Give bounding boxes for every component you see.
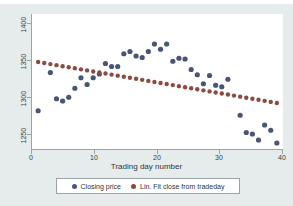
- data-point: [116, 73, 120, 77]
- data-point: [79, 67, 83, 71]
- data-point: [220, 91, 224, 95]
- data-point: [158, 47, 163, 52]
- data-point: [256, 98, 260, 102]
- data-point: [48, 70, 53, 75]
- y-tick-text: 1400: [20, 13, 27, 33]
- data-point: [60, 98, 65, 103]
- data-point: [164, 41, 169, 46]
- x-tick-label-3: 30: [209, 154, 229, 161]
- data-point: [171, 83, 175, 87]
- y-tick-text: 1250: [20, 124, 27, 144]
- data-point: [73, 66, 77, 70]
- data-point: [109, 64, 114, 69]
- data-point: [244, 96, 248, 100]
- legend-label: Lin. Fit close from tradeday: [140, 183, 224, 190]
- data-point: [207, 89, 211, 93]
- data-point: [122, 75, 126, 79]
- data-point: [48, 62, 52, 66]
- data-point: [36, 108, 41, 113]
- data-point: [201, 81, 206, 86]
- data-point: [177, 84, 181, 88]
- data-point: [226, 92, 230, 96]
- data-point: [146, 49, 151, 54]
- data-point: [78, 75, 83, 80]
- data-point: [103, 71, 107, 75]
- data-point: [275, 101, 279, 105]
- filled-circle-marker-icon: [72, 184, 77, 189]
- data-point: [121, 51, 126, 56]
- data-point: [238, 113, 243, 118]
- x-tick-label-2: 20: [147, 154, 167, 161]
- data-point: [140, 55, 145, 60]
- data-point: [97, 70, 101, 74]
- y-tick-mark-0: [27, 23, 31, 24]
- data-point: [195, 87, 199, 91]
- data-point: [219, 84, 224, 89]
- data-point: [256, 137, 261, 142]
- data-point: [274, 140, 279, 145]
- top-margin: [0, 0, 293, 4]
- data-point: [109, 72, 113, 76]
- data-point: [91, 69, 95, 73]
- chart-screenshot: 1400 1350 1300 1250 0 10 20 30 40 Tradin…: [0, 0, 293, 206]
- data-point: [67, 65, 71, 69]
- data-point: [262, 99, 266, 103]
- data-point: [146, 79, 150, 83]
- legend-label: Closing price: [81, 183, 121, 190]
- legend-entry-closing-price[interactable]: Closing price: [72, 183, 121, 190]
- data-point: [244, 130, 249, 135]
- data-point: [268, 128, 273, 133]
- data-point: [250, 97, 254, 101]
- data-point: [60, 64, 64, 68]
- data-point: [201, 88, 205, 92]
- series-linear-fit: [36, 60, 279, 105]
- y-tick-mark-1: [27, 60, 31, 61]
- x-tick-label-1: 10: [84, 154, 104, 161]
- data-point: [164, 82, 168, 86]
- data-point: [36, 60, 40, 64]
- data-point: [72, 86, 77, 91]
- data-point: [189, 86, 193, 90]
- data-point: [158, 81, 162, 85]
- data-point: [195, 72, 200, 77]
- data-point: [207, 73, 212, 78]
- data-point: [232, 93, 236, 97]
- data-point: [176, 56, 181, 61]
- data-point: [66, 95, 71, 100]
- data-point: [250, 131, 255, 136]
- data-point: [91, 75, 96, 80]
- data-point: [152, 80, 156, 84]
- data-point: [133, 53, 138, 58]
- data-point: [85, 68, 89, 72]
- data-point: [170, 59, 175, 64]
- data-point: [103, 61, 108, 66]
- legend-entry-linear-fit[interactable]: Lin. Fit close from tradeday: [131, 183, 224, 190]
- data-point: [182, 56, 187, 61]
- data-point: [269, 100, 273, 104]
- data-point: [140, 78, 144, 82]
- filled-circle-marker-icon: [131, 184, 136, 189]
- data-point: [189, 67, 194, 72]
- x-tick-label-0: 0: [21, 154, 41, 161]
- data-point: [183, 85, 187, 89]
- data-point: [238, 94, 242, 98]
- x-axis-label: Trading day number: [0, 162, 293, 171]
- data-point: [115, 64, 120, 69]
- data-point: [152, 41, 157, 46]
- plot-area: [31, 14, 283, 150]
- series-closing-price: [36, 41, 280, 145]
- y-tick-text: 1300: [20, 87, 27, 107]
- data-point: [134, 77, 138, 81]
- y-tick-mark-2: [27, 97, 31, 98]
- data-point: [54, 96, 59, 101]
- data-point: [225, 77, 230, 82]
- data-point: [213, 90, 217, 94]
- y-tick-mark-3: [27, 134, 31, 135]
- plot-canvas: [32, 14, 283, 149]
- data-point: [262, 122, 267, 127]
- data-point: [85, 82, 90, 87]
- data-point: [54, 63, 58, 67]
- y-tick-text: 1350: [20, 50, 27, 70]
- data-point: [128, 76, 132, 80]
- data-point: [42, 61, 46, 65]
